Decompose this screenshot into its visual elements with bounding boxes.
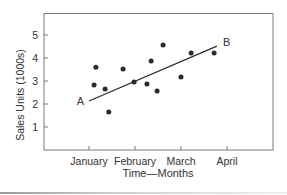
data-point bbox=[155, 88, 160, 93]
data-point bbox=[121, 67, 126, 72]
trend-line bbox=[89, 46, 217, 101]
y-tick-label: 1 bbox=[32, 121, 38, 133]
y-tick-label: 4 bbox=[32, 52, 38, 64]
data-point bbox=[106, 110, 111, 115]
point-label-b: B bbox=[223, 36, 230, 48]
x-axis: JanuaryFebruaryMarchApril bbox=[70, 146, 237, 167]
point-label-a: A bbox=[77, 95, 85, 107]
y-axis: 12345 bbox=[32, 29, 48, 133]
regression-line bbox=[89, 46, 217, 101]
x-tick-label: January bbox=[70, 155, 108, 167]
y-tick-label: 3 bbox=[32, 75, 38, 87]
data-point bbox=[93, 65, 98, 70]
data-point bbox=[179, 75, 184, 80]
data-point bbox=[212, 50, 217, 55]
plot-border bbox=[44, 14, 273, 151]
data-points bbox=[92, 42, 217, 114]
y-tick-label: 2 bbox=[32, 98, 38, 110]
x-tick-label: April bbox=[216, 155, 237, 167]
data-point bbox=[161, 42, 166, 47]
data-point bbox=[144, 81, 149, 86]
x-axis-label: Time—Months bbox=[122, 167, 194, 179]
x-tick-label: March bbox=[166, 155, 195, 167]
scatter-chart: 12345 JanuaryFebruaryMarchApril AB Time—… bbox=[0, 0, 287, 195]
y-axis-label: Sales Units (1000s) bbox=[14, 49, 26, 141]
data-point bbox=[189, 50, 194, 55]
y-tick-label: 5 bbox=[32, 29, 38, 41]
x-tick-label: February bbox=[114, 155, 157, 167]
data-point bbox=[149, 58, 154, 63]
data-point bbox=[103, 87, 108, 92]
plot-frame bbox=[44, 14, 273, 151]
page-divider bbox=[0, 192, 287, 194]
data-point bbox=[92, 82, 97, 87]
data-point bbox=[132, 79, 137, 84]
